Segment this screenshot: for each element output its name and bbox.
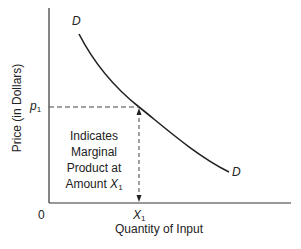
origin-label: 0 [38, 208, 45, 222]
arrow-down-icon [137, 195, 142, 202]
annotation-symbol: X [110, 177, 118, 191]
x-axis-label: Quantity of Input [115, 222, 203, 236]
annotation-prefix: Amount [65, 177, 110, 191]
price-symbol: p [30, 99, 37, 113]
annotation-subscript: 1 [118, 183, 122, 192]
annotation-line-3: Product at [62, 160, 126, 176]
diagram-canvas [0, 0, 301, 249]
marginal-product-annotation: Indicates Marginal Product at Amount X1 [62, 128, 126, 196]
curve-label-top: D [72, 14, 81, 28]
annotation-line-2: Marginal [62, 144, 126, 160]
annotation-line-4: Amount X1 [62, 176, 126, 196]
curve-label-bottom: D [232, 165, 241, 179]
price-subscript: 1 [37, 105, 41, 114]
quantity-symbol: X [133, 208, 141, 222]
annotation-line-1: Indicates [62, 128, 126, 144]
price-label: p1 [30, 99, 41, 117]
y-axis-label: Price (in Dollars) [10, 53, 24, 163]
